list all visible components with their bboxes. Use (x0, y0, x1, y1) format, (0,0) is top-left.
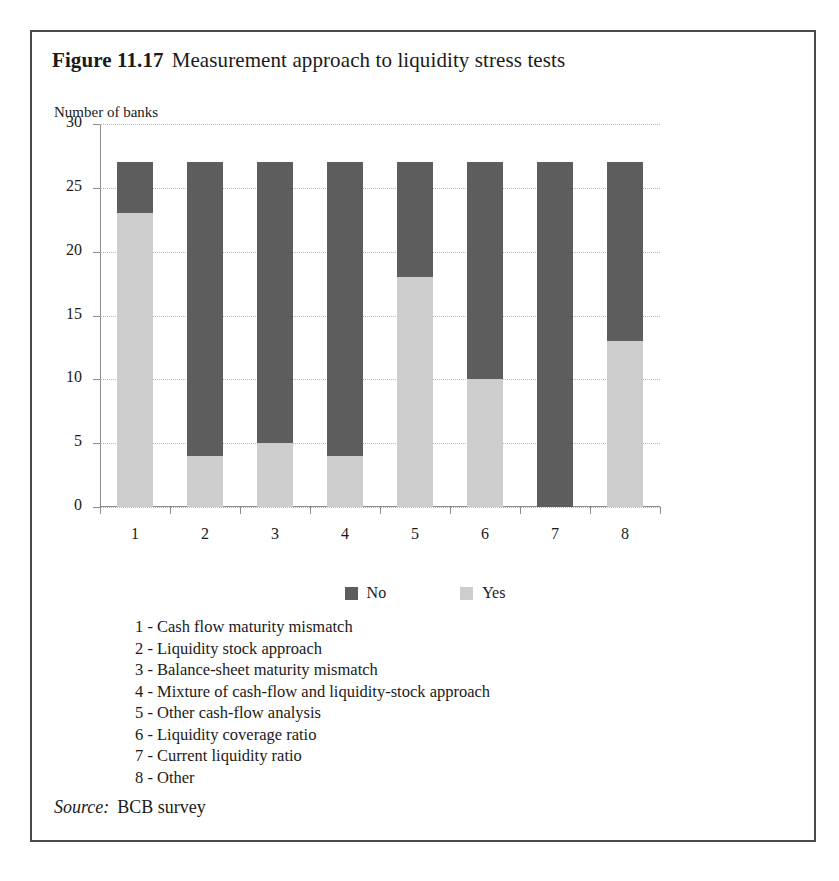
x-axis-tick (100, 507, 101, 514)
legend-swatch-no-icon (345, 587, 358, 600)
x-axis-tick (520, 507, 521, 514)
y-axis-tick-label: 5 (38, 432, 82, 450)
gridline (100, 443, 660, 444)
bar-group[interactable] (397, 124, 433, 507)
bar-segment-no[interactable] (397, 162, 433, 277)
y-axis-tick (93, 188, 100, 189)
source-label: Source: (54, 797, 109, 817)
y-axis-tick (93, 507, 100, 508)
bar-segment-yes[interactable] (257, 443, 293, 507)
x-axis-tick-label: 5 (395, 525, 435, 543)
bar-segment-no[interactable] (257, 162, 293, 443)
bar-group[interactable] (537, 124, 573, 507)
y-axis-tick-label: 15 (38, 305, 82, 323)
x-axis-tick (380, 507, 381, 514)
x-axis-tick-label: 6 (465, 525, 505, 543)
x-axis-tick (660, 507, 661, 514)
bar-segment-yes[interactable] (397, 277, 433, 507)
x-axis-tick (310, 507, 311, 514)
bar-group[interactable] (257, 124, 293, 507)
x-axis-tick-label: 7 (535, 525, 575, 543)
x-axis-tick (450, 507, 451, 514)
y-axis-tick-label: 30 (38, 113, 82, 131)
bar-group[interactable] (117, 124, 153, 507)
y-axis-tick-label: 25 (38, 177, 82, 195)
bar-segment-yes[interactable] (187, 456, 223, 507)
chart-legend: NoYes (32, 584, 818, 602)
gridline (100, 379, 660, 380)
x-axis-tick-label: 1 (115, 525, 155, 543)
gridline (100, 316, 660, 317)
category-key-item: 7 - Current liquidity ratio (135, 745, 490, 767)
category-key-item: 6 - Liquidity coverage ratio (135, 724, 490, 746)
bar-group[interactable] (327, 124, 363, 507)
bar-group[interactable] (187, 124, 223, 507)
bar-segment-no[interactable] (607, 162, 643, 341)
y-axis-tick-label: 20 (38, 241, 82, 259)
category-key-item: 1 - Cash flow maturity mismatch (135, 616, 490, 638)
x-axis-tick-label: 4 (325, 525, 365, 543)
x-axis-tick (170, 507, 171, 514)
x-axis-tick (240, 507, 241, 514)
category-key-item: 8 - Other (135, 767, 490, 789)
bar-segment-no[interactable] (327, 162, 363, 456)
y-axis-tick-label: 0 (38, 496, 82, 514)
legend-label: Yes (482, 584, 505, 602)
x-axis-tick-label: 2 (185, 525, 225, 543)
source-value: BCB survey (117, 797, 206, 817)
legend-item-yes[interactable]: Yes (460, 584, 505, 602)
bar-segment-no[interactable] (467, 162, 503, 379)
gridline (100, 124, 660, 125)
category-key-item: 2 - Liquidity stock approach (135, 638, 490, 660)
y-axis-tick (93, 379, 100, 380)
legend-label: No (367, 584, 387, 602)
bar-segment-yes[interactable] (327, 456, 363, 507)
category-key-item: 4 - Mixture of cash-flow and liquidity-s… (135, 681, 490, 703)
plot-area: 051015202530 12345678 (100, 124, 660, 507)
bar-segment-yes[interactable] (467, 379, 503, 507)
bar-segment-yes[interactable] (117, 213, 153, 507)
y-axis-tick-label: 10 (38, 368, 82, 386)
bar-group[interactable] (467, 124, 503, 507)
x-axis-tick-label: 8 (605, 525, 645, 543)
category-key-list: 1 - Cash flow maturity mismatch2 - Liqui… (135, 616, 490, 788)
y-axis-tick (93, 124, 100, 125)
bar-segment-yes[interactable] (607, 341, 643, 507)
bar-group[interactable] (607, 124, 643, 507)
bar-segment-no[interactable] (537, 162, 573, 507)
y-axis-tick (93, 252, 100, 253)
legend-item-no[interactable]: No (345, 584, 387, 602)
y-axis-tick (93, 443, 100, 444)
legend-swatch-yes-icon (460, 587, 473, 600)
category-key-item: 3 - Balance-sheet maturity mismatch (135, 659, 490, 681)
category-key-item: 5 - Other cash-flow analysis (135, 702, 490, 724)
source-line: Source:BCB survey (54, 797, 206, 818)
gridline (100, 252, 660, 253)
y-axis-tick (93, 316, 100, 317)
bar-segment-no[interactable] (117, 162, 153, 213)
x-axis-tick-label: 3 (255, 525, 295, 543)
gridline (100, 188, 660, 189)
figure-frame: Figure 11.17Measurement approach to liqu… (30, 30, 816, 842)
x-axis-tick (590, 507, 591, 514)
bar-segment-no[interactable] (187, 162, 223, 456)
